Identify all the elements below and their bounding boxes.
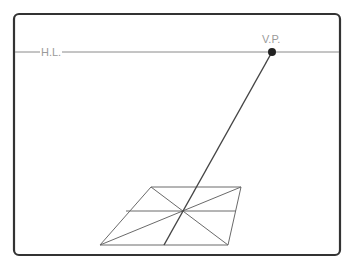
diagonal-1 bbox=[151, 187, 228, 245]
horizon-line-label: H.L. bbox=[40, 46, 62, 58]
vanishing-point-dot bbox=[268, 48, 276, 56]
vanishing-point-label: V.P. bbox=[261, 33, 281, 45]
perspective-diagram bbox=[0, 0, 354, 267]
diagonal-2 bbox=[100, 187, 241, 245]
vanishing-line bbox=[164, 52, 272, 245]
frame-border bbox=[14, 14, 340, 255]
ground-plane-grid bbox=[100, 187, 241, 245]
